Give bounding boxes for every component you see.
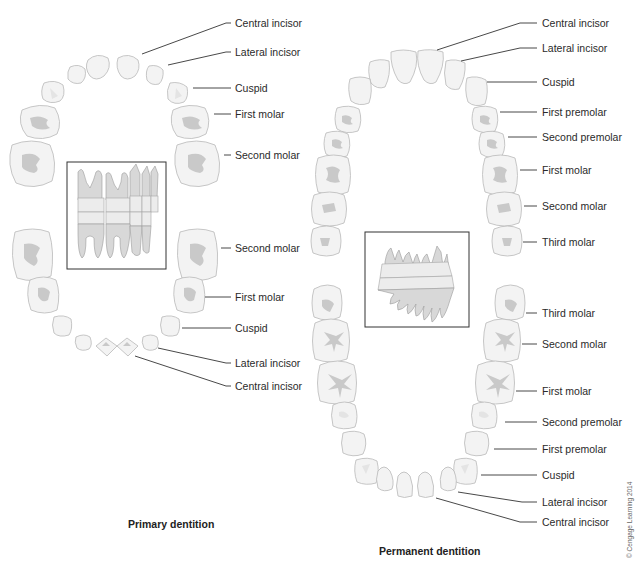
- primary-upper-cuspid-label: Cuspid: [235, 82, 268, 94]
- permanent-upper-lateral-incisor-label: Lateral incisor: [542, 42, 607, 54]
- permanent-upper-cuspid-label: Cuspid: [542, 76, 575, 88]
- permanent-inset: [365, 232, 469, 327]
- primary-lower-second-molar-label: Second molar: [235, 242, 300, 254]
- permanent-upper-third-molar-label: Third molar: [542, 236, 595, 248]
- permanent-lower-cuspid-label: Cuspid: [542, 469, 575, 481]
- primary-upper-lateral-incisor-label: Lateral incisor: [235, 46, 300, 58]
- permanent-lower-central-incisor-label: Central incisor: [542, 516, 609, 528]
- primary-inset: [67, 162, 166, 269]
- permanent-lower-third-molar-label: Third molar: [542, 307, 595, 319]
- primary-upper-first-molar-label: First molar: [235, 108, 285, 120]
- permanent-upper-central-incisor-label: Central incisor: [542, 17, 609, 29]
- primary-lower-first-molar-label: First molar: [235, 291, 285, 303]
- primary-dentition-caption: Primary dentition: [128, 518, 214, 530]
- primary-lower-central-incisor-label: Central incisor: [235, 380, 302, 392]
- permanent-upper-first-premolar-label: First premolar: [542, 106, 607, 118]
- dentition-diagram: Central incisor Lateral incisor Cuspid F…: [0, 0, 641, 565]
- primary-lower-cuspid-label: Cuspid: [235, 322, 268, 334]
- permanent-upper-arch: [311, 50, 522, 256]
- permanent-lower-second-premolar-label: Second premolar: [542, 416, 622, 428]
- primary-lower-lateral-incisor-label: Lateral incisor: [235, 357, 300, 369]
- primary-upper-second-molar-label: Second molar: [235, 149, 300, 161]
- primary-upper-central-incisor-label: Central incisor: [235, 17, 302, 29]
- permanent-upper-second-premolar-label: Second premolar: [542, 131, 622, 143]
- permanent-lower-second-molar-label: Second molar: [542, 338, 607, 350]
- permanent-upper-first-molar-label: First molar: [542, 164, 592, 176]
- copyright-notice: © Cengage Learning 2014: [626, 482, 633, 558]
- permanent-lower-first-molar-label: First molar: [542, 385, 592, 397]
- permanent-lower-lateral-incisor-label: Lateral incisor: [542, 496, 607, 508]
- permanent-lower-first-premolar-label: First premolar: [542, 443, 607, 455]
- permanent-dentition-caption: Permanent dentition: [379, 545, 481, 557]
- permanent-upper-second-molar-label: Second molar: [542, 200, 607, 212]
